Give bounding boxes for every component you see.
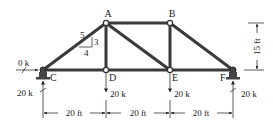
force-label-E: 20 k <box>174 89 190 99</box>
height-dimension: 15 ft <box>244 23 264 70</box>
node-label-B: B <box>169 8 176 19</box>
truss-members <box>43 23 233 70</box>
force-label-D: 20 k <box>110 89 126 99</box>
force-label-F-reaction: 20 k <box>241 89 257 99</box>
force-label-C-horizontal: 0 k <box>18 58 30 68</box>
member-AE <box>106 23 170 70</box>
slope-hyp-label: 5 <box>80 30 85 40</box>
span-label-3: 20 ft <box>193 108 210 118</box>
force-label-C-reaction: 20 k <box>17 88 33 98</box>
node-label-A: A <box>104 8 112 19</box>
span-dimensions: 20 ft 20 ft 20 ft <box>43 100 233 118</box>
reaction-arrow-F: 20 k <box>230 81 257 100</box>
truss-diagram: A B C D E F 5 3 4 0 k 20 k 20 k 20 k 20 … <box>0 0 273 130</box>
joint-A <box>103 20 108 25</box>
span-label-1: 20 ft <box>66 108 83 118</box>
horizontal-force-C: 0 k <box>16 58 38 73</box>
joint-D <box>103 67 108 72</box>
slope-rise-label: 3 <box>94 37 99 47</box>
node-label-E: E <box>172 72 178 83</box>
node-label-D: D <box>109 72 116 83</box>
joint-B <box>167 20 172 25</box>
slope-run-label: 4 <box>84 48 89 58</box>
node-label-F: F <box>220 72 226 83</box>
span-label-2: 20 ft <box>130 108 147 118</box>
node-label-C: C <box>50 72 57 83</box>
reaction-arrow-C: 20 k <box>17 81 46 100</box>
member-BF <box>170 23 233 70</box>
height-label: 15 ft <box>252 38 262 55</box>
